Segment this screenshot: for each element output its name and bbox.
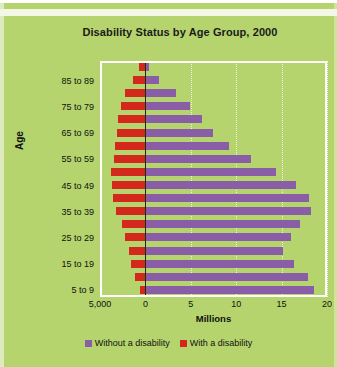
y-axis-tick-labels: 5 to 915 to 1925 to 2935 to 3945 to 4955… — [0, 61, 98, 297]
legend-label: Without a disability — [95, 338, 170, 348]
x-axis-tick-label: 20 — [322, 299, 332, 309]
x-axis-tick-label: 5,000 — [89, 299, 112, 309]
page-top-stripe — [0, 9, 337, 16]
legend-swatch — [85, 340, 92, 347]
x-axis-tick-label: 0 — [143, 299, 148, 309]
y-axis-tick-label: 65 to 69 — [61, 128, 94, 138]
plot-frame — [100, 61, 327, 297]
x-axis-tick-label: 15 — [277, 299, 287, 309]
y-axis-tick-label: 25 to 29 — [61, 233, 94, 243]
x-axis-title: Millions — [100, 313, 327, 324]
y-axis-tick-label: 15 to 19 — [61, 259, 94, 269]
chart-legend: Without a disabilityWith a disability — [0, 338, 337, 348]
chart-title: Disability Status by Age Group, 2000 — [60, 26, 300, 39]
y-axis-tick-label: 35 to 39 — [61, 207, 94, 217]
legend-item: Without a disability — [85, 338, 170, 348]
y-axis-tick-label: 75 to 79 — [61, 102, 94, 112]
gridline — [327, 61, 329, 297]
y-axis-tick-label: 85 to 89 — [61, 76, 94, 86]
y-axis-tick-label: 45 to 49 — [61, 181, 94, 191]
legend-swatch — [180, 340, 187, 347]
x-axis-tick-label: 5 — [188, 299, 193, 309]
y-axis-tick-label: 5 to 9 — [71, 285, 94, 295]
page-top-edge — [0, 0, 337, 3]
legend-label: With a disability — [190, 338, 253, 348]
x-axis-tick-labels: 5,00005101520 — [0, 299, 337, 313]
legend-item: With a disability — [180, 338, 253, 348]
y-axis-tick-label: 55 to 59 — [61, 154, 94, 164]
x-axis-tick-label: 10 — [231, 299, 241, 309]
